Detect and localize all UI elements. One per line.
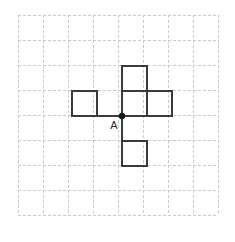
geometry-diagram: A [0,0,235,242]
point-a-dot [119,113,125,119]
figure-canvas: A [0,0,235,242]
point-a-label: A [110,119,118,131]
